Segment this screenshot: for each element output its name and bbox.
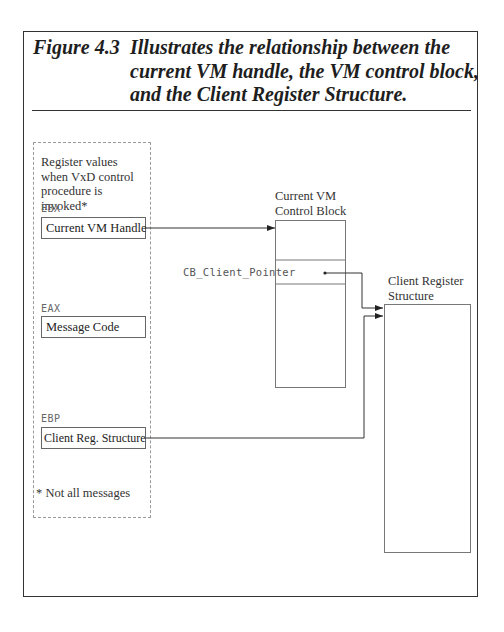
arrow-ebp	[146, 316, 383, 438]
arrow-client-pointer	[325, 273, 383, 308]
connector-lines	[0, 0, 504, 632]
